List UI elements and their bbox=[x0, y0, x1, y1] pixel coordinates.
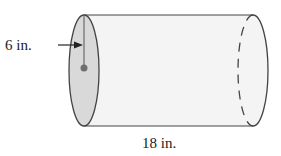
length-label: 18 in. bbox=[142, 135, 176, 151]
center-dot bbox=[81, 65, 88, 72]
cylinder-body bbox=[84, 15, 268, 126]
cylinder-diagram: 6 in. 18 in. bbox=[0, 0, 281, 156]
radius-label: 6 in. bbox=[5, 37, 32, 53]
